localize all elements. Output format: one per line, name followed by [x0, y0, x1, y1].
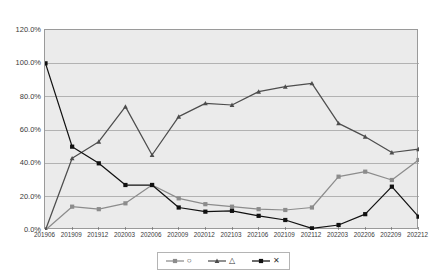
data-point [310, 226, 314, 230]
x-axis-label: 202003 [114, 231, 135, 238]
data-point [283, 218, 287, 222]
data-point [257, 214, 261, 218]
plot-svg [45, 30, 419, 230]
data-point [363, 212, 367, 216]
series-circle [45, 158, 419, 230]
y-axis-label: 60.0% [1, 125, 41, 134]
x-axis-label: 202212 [407, 231, 428, 238]
x-axis-label: 202103 [220, 231, 241, 238]
data-point [283, 208, 287, 212]
data-point [416, 215, 419, 219]
y-axis-label: 40.0% [1, 158, 41, 167]
data-point [70, 145, 74, 149]
data-point [257, 207, 261, 211]
data-point [177, 196, 181, 200]
data-point [123, 201, 127, 205]
x-axis-label: 201909 [61, 231, 82, 238]
data-point [230, 209, 234, 213]
data-point [336, 223, 340, 227]
legend-marker-x [259, 259, 263, 263]
x-axis-label: 202109 [274, 231, 295, 238]
y-axis-label: 120.0% [1, 25, 41, 34]
x-axis-label: 202203 [327, 231, 348, 238]
series-line [46, 63, 419, 228]
data-point [203, 210, 207, 214]
x-axis-label: 202009 [167, 231, 188, 238]
chart-legend: ○△✕ [157, 252, 290, 270]
legend-swatch-triangle [207, 256, 227, 266]
y-axis-label: 80.0% [1, 91, 41, 100]
data-point [390, 178, 394, 182]
x-axis-label: 202106 [247, 231, 268, 238]
data-point [363, 170, 367, 174]
x-axis-label: 202206 [354, 231, 375, 238]
legend-marker-circle [173, 259, 177, 263]
data-point [97, 207, 101, 211]
x-axis-label: 201906 [34, 231, 55, 238]
data-point [336, 175, 340, 179]
plot-area [44, 29, 418, 229]
x-axis-label: 202209 [380, 231, 401, 238]
legend-entry-x[interactable]: ✕ [251, 256, 282, 266]
x-axis-label: 202012 [194, 231, 215, 238]
legend-glyph-circle: ○ [187, 257, 192, 265]
x-axis: 2019062019092019122020032020062020092020… [0, 231, 436, 245]
data-point [70, 205, 74, 209]
legend-glyph-x: ✕ [273, 257, 280, 265]
y-axis-label: 100.0% [1, 58, 41, 67]
legend-entry-circle[interactable]: ○ [165, 256, 194, 266]
x-axis-label: 201912 [87, 231, 108, 238]
legend-swatch-x [251, 256, 271, 266]
data-point [45, 61, 48, 65]
legend-entry-triangle[interactable]: △ [207, 256, 237, 266]
data-point [390, 185, 394, 189]
y-axis-label: 20.0% [1, 191, 41, 200]
data-point [416, 158, 419, 162]
x-axis-label: 202112 [301, 231, 322, 238]
legend-swatch-circle [165, 256, 185, 266]
data-point [310, 205, 314, 209]
data-point [150, 183, 154, 187]
data-point [123, 183, 127, 187]
data-point [203, 202, 207, 206]
data-point [123, 104, 128, 108]
line-chart: 0.0%20.0%40.0%60.0%80.0%100.0%120.0% 201… [0, 0, 436, 278]
x-axis-label: 202006 [141, 231, 162, 238]
data-point [177, 205, 181, 209]
data-point [230, 205, 234, 209]
data-point [97, 161, 101, 165]
legend-glyph-triangle: △ [229, 257, 235, 265]
series-line [46, 160, 419, 230]
